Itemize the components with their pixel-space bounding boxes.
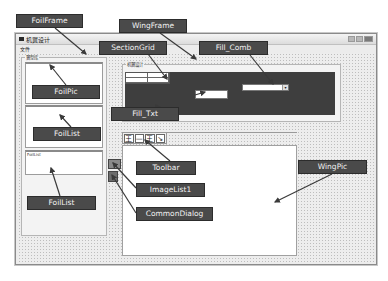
- toolbar: 王 — 王 ↘: [122, 132, 167, 144]
- app-window: 机翼设计 文件 翼型库 FoilList 机翼设计: [15, 33, 377, 265]
- callout-foilframe: FoilFrame: [16, 14, 83, 28]
- wing-section-icon[interactable]: 王: [145, 134, 155, 143]
- foil-list-box[interactable]: FoilList: [25, 150, 103, 175]
- app-icon: [19, 37, 24, 41]
- close-button[interactable]: [364, 36, 373, 42]
- menu-file[interactable]: 文件: [20, 45, 30, 53]
- callout-foillist-upper: FoilList: [33, 127, 101, 141]
- window-title: 机翼设计: [26, 35, 50, 44]
- callout-foilpic: FoilPic: [32, 85, 100, 99]
- wing-frame-label: 机翼设计: [126, 62, 144, 68]
- callout-sectiongrid: SectionGrid: [99, 41, 167, 55]
- callout-wingframe: WingFrame: [119, 19, 187, 33]
- section-grid[interactable]: [125, 72, 170, 84]
- callout-foillist-lower: FoilList: [27, 196, 96, 210]
- chevron-down-icon[interactable]: ▾: [282, 85, 288, 90]
- fill-comb-select[interactable]: ▾: [242, 84, 289, 91]
- window-controls: [348, 36, 373, 42]
- title-bar: 机翼设计: [16, 34, 376, 45]
- grid-cell[interactable]: [148, 78, 170, 83]
- image-list-icon: [108, 159, 121, 169]
- callout-wingpic: WingPic: [298, 160, 367, 174]
- maximize-button[interactable]: [356, 36, 363, 42]
- callout-toolbar: Toolbar: [136, 161, 196, 175]
- export-icon[interactable]: ↘: [156, 134, 166, 143]
- wing-plan-icon[interactable]: —: [135, 134, 145, 143]
- callout-fillcomb: Fill_Comb: [199, 41, 268, 55]
- foil-frame-label: 翼型库: [25, 55, 39, 61]
- minimize-button[interactable]: [348, 36, 355, 42]
- callout-imagelist: ImageList1: [136, 183, 205, 197]
- grid-cell[interactable]: [126, 78, 148, 83]
- section-icon[interactable]: 王: [124, 134, 134, 143]
- callout-filltxt: Fill_Txt: [111, 107, 179, 121]
- common-dialog-icon: [108, 171, 118, 182]
- toolbar-divider: [122, 132, 297, 133]
- fill-txt-input[interactable]: [195, 90, 228, 99]
- callout-commondialog: CommonDialog: [136, 207, 213, 221]
- menu-bar: 文件: [16, 45, 376, 53]
